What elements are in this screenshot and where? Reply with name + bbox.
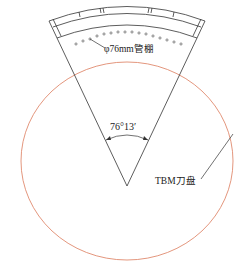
angle-arc	[106, 135, 148, 140]
angle-arrow-right	[143, 136, 148, 140]
diagram-canvas: φ76mm管棚 76°13′ TBM刀盘	[0, 0, 246, 275]
tbm-cutterhead-circle	[21, 62, 233, 260]
cutterhead-label: TBM刀盘	[155, 175, 196, 186]
angle-label: 76°13′	[110, 121, 136, 132]
pipe-roof-holes	[75, 31, 182, 45]
sector-outline	[49, 7, 205, 187]
pipe-roof-label: φ76mm管棚	[104, 43, 154, 54]
pipe-roof-leader	[90, 39, 105, 48]
angle-arrow-left	[106, 136, 111, 140]
cutterhead-leader	[201, 134, 233, 179]
